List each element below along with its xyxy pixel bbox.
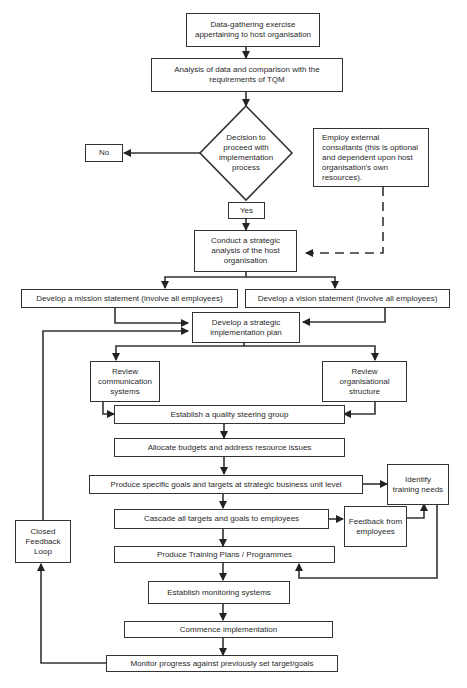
node-label: Feedback from employees [348,517,403,537]
node-consultants: Employ external consultants (this is opt… [313,128,429,187]
node-monitoring: Establish monitoring systems [148,581,290,604]
node-label: Closed Feedback Loop [19,527,67,557]
node-review-communication: Review communication systems [90,361,160,402]
node-label: Allocate budgets and address resource is… [148,443,312,453]
node-label: Commence implementation [180,625,277,635]
node-label: Produce Training Plans / Programmes [157,550,292,560]
node-label: Yes [240,206,253,216]
node-label: Review communication systems [94,367,156,397]
node-monitor-progress: Monitor progress against previously set … [106,655,338,672]
node-no: No [85,144,123,162]
node-label: Establish a quality steering group [171,410,289,420]
node-steering-group: Establish a quality steering group [114,405,345,424]
node-label: Employ external consultants (this is opt… [322,133,420,183]
node-label: Data-gathering exercise appertaining to … [190,20,316,40]
node-label: Develop a mission statement (involve all… [36,294,222,304]
node-budgets: Allocate budgets and address resource is… [114,438,345,457]
node-analysis: Analysis of data and comparison with the… [151,58,343,92]
node-closed-feedback-loop: Closed Feedback Loop [15,520,71,563]
node-label: Analysis of data and comparison with the… [155,65,339,85]
node-cascade: Cascade all targets and goals to employe… [114,509,329,529]
node-label: No [99,148,109,158]
node-label: Develop a vision statement (involve all … [258,294,438,304]
node-feedback: Feedback from employees [344,506,407,547]
node-vision: Develop a vision statement (involve all … [245,289,450,308]
node-strategic-analysis: Conduct a strategic analysis of the host… [194,230,297,272]
node-label: Identify training needs [391,475,445,495]
node-label: Conduct a strategic analysis of the host… [198,236,293,266]
node-training-plans: Produce Training Plans / Programmes [114,546,335,563]
node-label: Produce specific goals and targets at st… [110,480,341,490]
decision-diamond-label: Decision to proceed with implementation … [212,133,280,173]
node-label: Monitor progress against previously set … [130,659,313,669]
node-review-organisational: Review organisational structure [322,361,407,402]
node-strategic-plan: Develop a strategic implementation plan [192,312,300,343]
node-mission: Develop a mission statement (involve all… [21,289,238,308]
node-label: Cascade all targets and goals to employe… [144,514,299,524]
node-yes: Yes [228,202,265,219]
node-training-needs: Identify training needs [387,464,449,505]
node-label: Establish monitoring systems [167,588,271,598]
node-commence: Commence implementation [124,621,333,638]
node-label: Develop a strategic implementation plan [196,318,296,338]
node-data-gathering: Data-gathering exercise appertaining to … [186,13,320,47]
node-label: Review organisational structure [326,367,403,397]
node-goals-sbu: Produce specific goals and targets at st… [89,475,363,494]
